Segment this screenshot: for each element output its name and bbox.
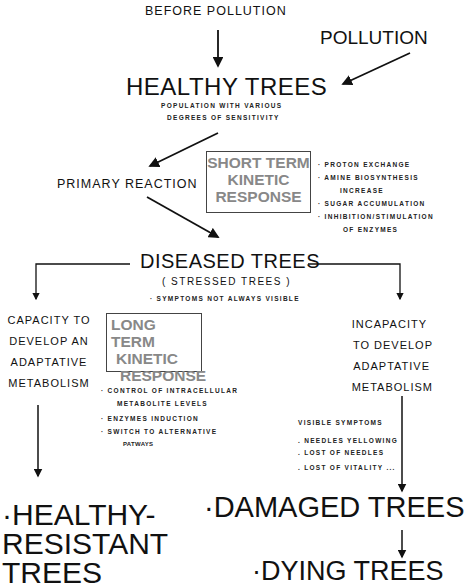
long-term-box-line3: RESPONSE [111, 367, 201, 384]
list-item: INCREASE [318, 184, 434, 197]
list-item: · CONTROL OF INTRACELLULAR [101, 385, 238, 398]
visible-symptoms: VISIBLE SYMPTOMS . NEEDLES YELLOWING . L… [298, 417, 398, 474]
capacity-label: CAPACITY TO DEVELOP AN ADAPTATIVE METABO… [6, 310, 92, 394]
list-item: OF ENZYMES [318, 223, 434, 236]
capacity-line: METABOLISM [6, 373, 92, 394]
list-item: . LOST OF NEEDLES [298, 447, 398, 460]
long-term-kinetic-response-box: LONG TERM KINETIC RESPONSE [106, 313, 202, 372]
short-term-kinetic-response-box: SHORT TERM KINETIC RESPONSE [206, 151, 311, 213]
list-item: · AMINE BIOSYNTHESIS [318, 171, 434, 184]
healthy-resistant-trees-label: ·HEALTHY- RESISTANT TREES [2, 500, 168, 585]
diseased-trees-subtitle: ( STRESSED TREES ) [162, 276, 291, 287]
damaged-trees-label: ·DAMAGED TREES [204, 491, 465, 524]
before-pollution-label: BEFORE POLLUTION [145, 4, 287, 18]
healthy-trees-subtitle-1: POPULATION WITH VARIOUS [161, 102, 282, 109]
list-item: · ENZYMES INDUCTION [101, 413, 238, 426]
incapacity-line: TO DEVELOP [343, 335, 433, 356]
diseased-trees-title: DISEASED TREES [140, 250, 320, 273]
list-item: . LOST OF VITALITY ... [298, 462, 398, 475]
list-item: · PROTON EXCHANGE [318, 158, 434, 171]
list-item: · SWITCH TO ALTERNATIVE [101, 426, 238, 439]
short-term-box-line3: RESPONSE [207, 188, 310, 205]
outcome-line: TREES [2, 558, 168, 585]
short-term-effects-list: · PROTON EXCHANGE · AMINE BIOSYNTHESIS I… [318, 158, 434, 236]
list-item: · SUGAR ACCUMULATION [318, 197, 434, 210]
dying-trees-label: ·DYING TREES [252, 556, 444, 585]
incapacity-line: METABOLISM [343, 377, 433, 398]
list-item: METABOLITE LEVELS [101, 398, 238, 411]
long-term-box-line1: LONG TERM [111, 316, 201, 350]
outcome-line: RESISTANT [2, 529, 168, 558]
list-item: · INHIBITION/STIMULATION [318, 210, 434, 223]
long-term-box-line2: KINETIC [111, 350, 201, 367]
primary-reaction-label: PRIMARY REACTION [57, 177, 198, 191]
capacity-line: ADAPTATIVE [6, 352, 92, 373]
incapacity-line: ADAPTATIVE [343, 356, 433, 377]
list-item: . NEEDLES YELLOWING [298, 435, 398, 448]
healthy-trees-subtitle-2: DEGREES OF SENSITIVITY [167, 114, 280, 121]
pollution-label: POLLUTION [320, 27, 428, 49]
visible-symptoms-title: VISIBLE SYMPTOMS [298, 417, 398, 430]
outcome-line: ·HEALTHY- [2, 500, 168, 529]
short-term-box-line2: KINETIC [207, 171, 310, 188]
healthy-trees-title: HEALTHY TREES [126, 73, 327, 101]
capacity-line: DEVELOP AN [6, 331, 92, 352]
incapacity-line: INCAPACITY [343, 314, 433, 335]
long-term-effects-list: · CONTROL OF INTRACELLULAR METABOLITE LE… [101, 385, 238, 451]
incapacity-label: INCAPACITY TO DEVELOP ADAPTATIVE METABOL… [343, 314, 433, 398]
symptoms-note: · SYMPTOMS NOT ALWAYS VISIBLE [150, 295, 300, 302]
list-item: PATWAYS [101, 438, 238, 451]
capacity-line: CAPACITY TO [6, 310, 92, 331]
short-term-box-line1: SHORT TERM [207, 154, 310, 171]
